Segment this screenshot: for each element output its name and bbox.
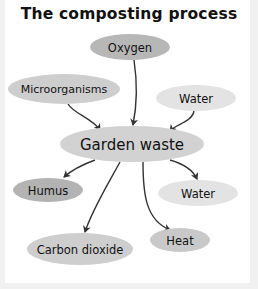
node-label: Microorganisms [21, 83, 108, 96]
node-label: Oxygen [108, 41, 152, 55]
node-label: Water [181, 187, 215, 201]
node-humus: Humus [13, 178, 83, 202]
node-water-out: Water [158, 180, 238, 206]
arrow-garden-waste-to-carbon-dioxide [85, 162, 120, 232]
arrow-garden-waste-to-water-out [170, 160, 197, 179]
node-garden-waste: Garden waste [60, 126, 204, 162]
composting-diagram: Garden wasteOxygenMicroorganismsWaterHum… [0, 0, 258, 289]
arrow-garden-waste-to-humus [64, 160, 95, 177]
node-label: Carbon dioxide [37, 243, 124, 257]
arrow-oxygen-to-garden-waste [133, 60, 136, 125]
node-label: Water [179, 92, 213, 106]
node-microorganisms: Microorganisms [8, 74, 120, 104]
node-heat: Heat [150, 228, 210, 252]
arrow-microorganisms-to-garden-waste [68, 104, 100, 130]
node-label: Heat [166, 234, 194, 248]
node-label: Garden waste [80, 136, 184, 154]
nodes: Garden wasteOxygenMicroorganismsWaterHum… [8, 34, 238, 265]
node-label: Humus [28, 184, 68, 198]
node-oxygen: Oxygen [90, 34, 170, 60]
node-carbon-dioxide: Carbon dioxide [27, 233, 133, 265]
arrow-water-in-to-garden-waste [170, 111, 194, 131]
node-water-in: Water [156, 85, 236, 111]
